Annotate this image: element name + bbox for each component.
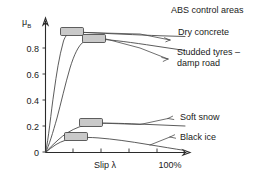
series-label-soft-snow: Soft snow [180,112,220,122]
abs-box-black-ice [65,133,88,141]
abs-control-areas-chart: ABS control areas 0 0.2 0.4 0.6 0.8 μB S… [0,0,265,178]
y-tick-label-0.4: 0.4 [26,96,39,106]
series-label-black-ice: Black ice [180,132,216,142]
x-axis-end-label: 100% [158,160,181,170]
y-tick-label-0: 0 [34,148,39,158]
abs-box-studded-tyres [83,35,106,43]
abs-box-soft-snow [80,119,103,127]
y-axis-label-subscript: B [27,23,31,29]
abs-box-dry-concrete [61,28,84,36]
y-tick-label-0.2: 0.2 [26,122,39,132]
series-label-studded-tyres-line1: Studded tyres – [177,47,240,57]
chart-title: ABS control areas [171,5,244,15]
series-label-dry-concrete: Dry concrete [178,27,229,37]
y-tick-label-0.8: 0.8 [26,44,39,54]
y-tick-label-0.6: 0.6 [26,70,39,80]
series-label-studded-tyres-line2: damp road [177,58,220,68]
x-axis-label: Slip λ [94,160,117,170]
